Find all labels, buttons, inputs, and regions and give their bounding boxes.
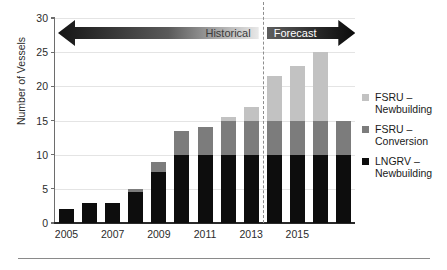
bar-column <box>290 66 305 223</box>
bar-segment-lngrv-newbuilding <box>336 155 351 223</box>
bar-segment-lngrv-newbuilding <box>82 203 97 224</box>
x-tick-label: 2011 <box>194 228 217 240</box>
legend-label-line1: FSRU – <box>375 124 447 136</box>
legend-swatch-icon <box>362 94 369 101</box>
y-tick-label: 0 <box>42 218 48 229</box>
bar-column <box>244 107 259 223</box>
bar-segment-fsru-newbuilding <box>244 107 259 121</box>
bar-segment-fsru-newbuilding <box>221 117 236 120</box>
chart-legend: FSRU –NewbuildingFSRU –ConversionLNGRV –… <box>362 92 447 188</box>
footer-divider-rule <box>18 258 430 259</box>
plot-area: 051015202530 200520072009201120132015 <box>55 18 355 223</box>
bar-segment-lngrv-newbuilding <box>105 203 120 224</box>
historical-arrow: Historical <box>58 20 259 46</box>
bar-column <box>198 127 213 223</box>
bar-segment-fsru-conversion <box>313 121 328 155</box>
y-tick-label: 25 <box>36 47 48 58</box>
forecast-arrow-label: Forecast <box>274 27 317 39</box>
bar-segment-fsru-conversion <box>244 121 259 155</box>
bar-segment-lngrv-newbuilding <box>221 155 236 223</box>
bar-column <box>128 189 143 223</box>
x-tick-label: 2013 <box>239 228 262 240</box>
legend-label-line2: Conversion <box>375 136 447 148</box>
y-tick-label: 30 <box>36 13 48 24</box>
y-axis-title: Number of Vessels <box>15 6 27 156</box>
legend-swatch-icon <box>362 158 369 165</box>
bar-segment-fsru-newbuilding <box>313 52 328 120</box>
bar-column <box>174 131 189 223</box>
bar-segment-lngrv-newbuilding <box>59 209 74 223</box>
legend-item-fsru-newbuilding[interactable]: FSRU –Newbuilding <box>362 92 447 115</box>
x-tick-label: 2009 <box>147 228 170 240</box>
bar-column <box>105 203 120 224</box>
bar-segment-fsru-conversion <box>221 121 236 155</box>
bar-segment-lngrv-newbuilding <box>198 155 213 223</box>
x-tick-label: 2007 <box>101 228 124 240</box>
legend-swatch-icon <box>362 126 369 133</box>
bar-segment-lngrv-newbuilding <box>267 155 282 223</box>
bar-segment-fsru-conversion <box>336 121 351 155</box>
footer-cropped-text <box>22 264 426 270</box>
bar-column <box>313 52 328 223</box>
legend-label-line1: LNGRV – <box>375 156 447 168</box>
legend-item-fsru-conversion[interactable]: FSRU –Conversion <box>362 124 447 147</box>
y-tick-label: 5 <box>42 184 48 195</box>
chart-figure: Number of Vessels 051015202530 200520072… <box>0 0 447 270</box>
bar-segment-lngrv-newbuilding <box>174 155 189 223</box>
bar-column <box>221 117 236 223</box>
bar-segment-fsru-conversion <box>290 121 305 155</box>
bar-segment-fsru-conversion <box>128 189 143 192</box>
bar-column <box>59 209 74 223</box>
bar-segment-lngrv-newbuilding <box>313 155 328 223</box>
bar-segment-lngrv-newbuilding <box>244 155 259 223</box>
bar-column <box>151 162 166 224</box>
historical-forecast-banner: Historical Forecast <box>58 20 355 46</box>
bar-segment-lngrv-newbuilding <box>290 155 305 223</box>
x-tick-label: 2015 <box>286 228 309 240</box>
legend-label-line1: FSRU – <box>375 92 447 104</box>
bar-column <box>336 121 351 224</box>
bar-segment-lngrv-newbuilding <box>128 192 143 223</box>
bar-segment-fsru-conversion <box>198 127 213 154</box>
bar-series-group <box>55 18 355 223</box>
bar-segment-fsru-conversion <box>267 121 282 155</box>
y-tick-label: 10 <box>36 149 48 160</box>
bar-column <box>267 76 282 223</box>
bar-segment-fsru-newbuilding <box>267 76 282 120</box>
y-tick-label: 15 <box>36 115 48 126</box>
legend-item-lngrv-newbuilding[interactable]: LNGRV –Newbuilding <box>362 156 447 179</box>
y-tick-label: 20 <box>36 81 48 92</box>
forecast-arrow: Forecast <box>267 20 355 46</box>
bar-segment-fsru-newbuilding <box>290 66 305 121</box>
bar-column <box>82 203 97 224</box>
legend-label-line2: Newbuilding <box>375 168 447 180</box>
bar-segment-lngrv-newbuilding <box>151 172 166 223</box>
x-tick-label: 2005 <box>55 228 78 240</box>
historical-arrow-label: Historical <box>205 27 250 39</box>
bar-segment-fsru-conversion <box>151 162 166 172</box>
bar-segment-fsru-conversion <box>174 131 189 155</box>
legend-label-line2: Newbuilding <box>375 104 447 116</box>
